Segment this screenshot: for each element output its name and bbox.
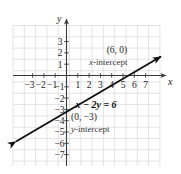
y-tick-label: 2 xyxy=(58,48,63,58)
x-intercept-caption: x-intercept xyxy=(88,57,128,67)
y-tick-label: 1 xyxy=(58,60,63,70)
x-intercept-caption-rest: -intercept xyxy=(93,57,128,67)
x-tick-label: 6 xyxy=(132,80,137,90)
y-intercept-caption-rest: -intercept xyxy=(75,124,110,134)
equation-label: x − 2y = 6 xyxy=(74,99,116,110)
y-intercept-caption: y-intercept xyxy=(70,124,110,134)
y-tick-labels: 3 2 1 −1 −2 −3 −4 −5 −6 −7 xyxy=(54,37,64,160)
y-axis-letter: y xyxy=(56,13,62,24)
y-tick-label: −2 xyxy=(54,94,64,104)
coordinate-graph-figure: y x −3 xyxy=(0,0,181,174)
x-tick-label: 1 xyxy=(75,80,80,90)
y-tick-label: −1 xyxy=(54,82,64,92)
x-tick-label: −2 xyxy=(36,80,46,90)
x-tick-label: 3 xyxy=(98,80,103,90)
y-tick-label: −6 xyxy=(54,139,64,149)
x-tick-label: 7 xyxy=(143,80,148,90)
x-tick-label: −3 xyxy=(24,80,34,90)
x-tick-label: 5 xyxy=(121,80,126,90)
x-axis-letter: x xyxy=(167,76,173,87)
axis-lines xyxy=(13,19,166,166)
grid-lines xyxy=(13,25,160,166)
y-tick-label: 3 xyxy=(58,37,63,47)
y-tick-label: −5 xyxy=(54,127,64,137)
x-tick-label: 2 xyxy=(87,80,92,90)
y-intercept-point-label: (0, −3) xyxy=(71,112,97,123)
x-tick-labels: −3 −2 −1 1 2 3 4 5 6 7 xyxy=(24,80,148,90)
graph-canvas: y x −3 xyxy=(0,0,181,174)
y-tick-label: −7 xyxy=(54,150,64,160)
x-intercept-point-label: (6, 0) xyxy=(107,45,128,56)
